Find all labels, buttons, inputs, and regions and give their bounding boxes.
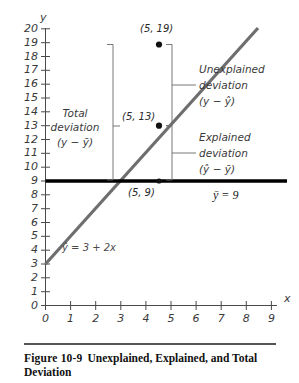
unexplained-deviation-line3: (y − ŷ) xyxy=(199,95,235,107)
y-tick-label-11: 11 xyxy=(24,146,38,159)
data-point-label-predicted: (5, 13) xyxy=(122,111,155,122)
figure-caption-block: Figure 10-9Unexplained, Explained, and T… xyxy=(0,338,299,383)
y-tick-label-2: 2 xyxy=(31,271,38,284)
data-point-label-observed: (5, 19) xyxy=(140,23,173,34)
y-tick-label-19: 19 xyxy=(24,36,38,49)
y-tick-label-4: 4 xyxy=(31,243,38,256)
x-tick-label-7: 7 xyxy=(218,312,225,325)
y-tick-label-12: 12 xyxy=(24,133,38,146)
y-tick-label-17: 17 xyxy=(24,63,38,76)
figure-caption: Figure 10-9Unexplained, Explained, and T… xyxy=(24,351,280,379)
unexplained-deviation-annotation: Unexplained deviation (y − ŷ) xyxy=(199,63,265,107)
explained-deviation-line2: deviation xyxy=(199,147,248,159)
y-tick-label-0: 0 xyxy=(31,299,38,312)
x-tick-label-0: 0 xyxy=(42,312,49,325)
unexplained-deviation-line1: Unexplained xyxy=(199,63,265,75)
x-tick-label-8: 8 xyxy=(243,312,250,325)
x-tick-label-5: 5 xyxy=(168,312,175,325)
deviation-scatter-plot: 0 1 2 3 4 5 6 7 8 9 10 11 12 xyxy=(0,0,299,338)
figure-container: 0 1 2 3 4 5 6 7 8 9 10 11 12 xyxy=(0,0,299,383)
y-tick-label-18: 18 xyxy=(24,50,38,63)
total-deviation-line3: (y − ȳ) xyxy=(57,136,93,148)
data-point-label-mean: (5, 9) xyxy=(128,187,155,198)
y-tick-label-16: 16 xyxy=(24,77,38,90)
total-deviation-line2: deviation xyxy=(51,121,100,133)
explained-deviation-annotation: Explained deviation (ŷ − ȳ) xyxy=(199,131,251,175)
x-tick-label-1: 1 xyxy=(67,312,74,325)
x-tick-label-4: 4 xyxy=(142,312,149,325)
y-tick-label-14: 14 xyxy=(24,105,38,118)
total-deviation-line1: Total xyxy=(62,107,87,119)
x-axis-ticks: 0 1 2 3 4 5 6 7 8 9 xyxy=(42,301,275,325)
y-tick-label-1: 1 xyxy=(31,285,38,298)
y-tick-label-6: 6 xyxy=(31,216,38,229)
y-tick-label-20: 20 xyxy=(24,22,38,35)
x-tick-label-6: 6 xyxy=(193,312,200,325)
explained-deviation-line3: (ŷ − ȳ) xyxy=(199,163,235,175)
y-tick-label-15: 15 xyxy=(24,91,38,104)
x-axis-label: x xyxy=(283,292,291,305)
y-tick-label-5: 5 xyxy=(31,229,38,242)
x-tick-label-9: 9 xyxy=(268,312,275,325)
unexplained-deviation-line2: deviation xyxy=(199,79,248,91)
figure-number: Figure 10-9 xyxy=(24,352,83,364)
data-point-observed xyxy=(156,41,162,47)
y-tick-label-13: 13 xyxy=(24,119,38,132)
explained-deviation-line1: Explained xyxy=(199,131,251,143)
y-tick-label-3: 3 xyxy=(31,257,38,270)
total-deviation-bracket xyxy=(107,45,120,181)
y-axis-label: y xyxy=(39,11,47,24)
caption-divider xyxy=(24,343,276,345)
y-tick-label-7: 7 xyxy=(31,202,38,215)
y-axis-ticks: 0 1 2 3 4 5 6 7 8 9 10 11 12 xyxy=(24,22,50,312)
x-tick-label-2: 2 xyxy=(92,312,99,325)
data-point-mean xyxy=(156,178,161,183)
regression-equation-label: ŷ = 3 + 2x xyxy=(61,242,116,253)
total-deviation-annotation: Total deviation (y − ȳ) xyxy=(51,107,100,148)
y-tick-label-8: 8 xyxy=(31,188,38,201)
y-tick-label-10: 10 xyxy=(24,160,38,173)
x-tick-label-3: 3 xyxy=(117,312,124,325)
y-tick-label-9: 9 xyxy=(31,174,38,187)
mean-equation-label: ȳ = 9 xyxy=(212,188,238,202)
data-point-predicted xyxy=(156,123,162,129)
